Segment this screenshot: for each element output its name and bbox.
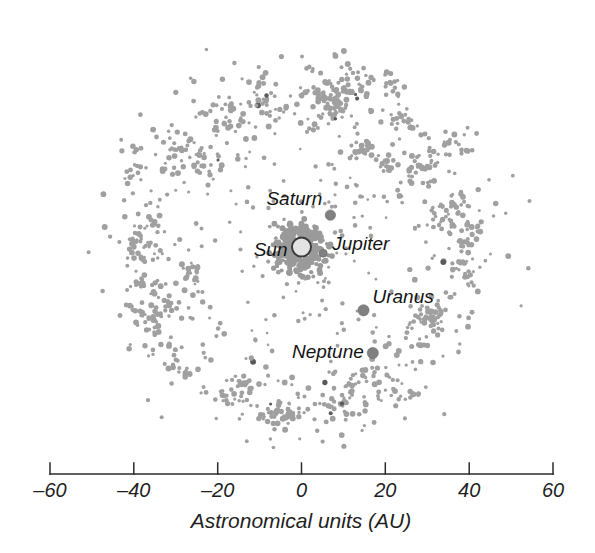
planet-marker-saturn: [325, 210, 335, 220]
kuiper-belt-figure: SunJupiterSaturnUranusNeptune –60–40–200…: [0, 0, 595, 553]
x-axis-tick-label: –20: [200, 479, 234, 501]
planet-marker-neptune: [367, 347, 378, 358]
x-axis-tick-label: 0: [296, 479, 307, 501]
x-axis-tick-label: –40: [116, 479, 150, 501]
x-axis-title: Astronomical units (AU): [189, 509, 412, 532]
planet-label-uranus: Uranus: [373, 286, 435, 307]
x-axis-tick-label: –60: [32, 479, 66, 501]
x-axis: –60–40–200204060: [32, 463, 564, 501]
planet-labels-layer: SunJupiterSaturnUranusNeptune: [254, 188, 435, 362]
scatter-plot-svg: SunJupiterSaturnUranusNeptune –60–40–200…: [0, 0, 595, 553]
planet-marker-uranus: [358, 305, 369, 316]
x-axis-tick-label: 20: [373, 479, 396, 501]
sun-marker: [292, 238, 311, 257]
planet-marker-jupiter: [319, 249, 327, 257]
planet-label-neptune: Neptune: [292, 341, 364, 362]
planet-label-saturn: Saturn: [266, 188, 322, 209]
x-axis-tick-label: 60: [542, 479, 564, 501]
planet-label-jupiter: Jupiter: [331, 233, 390, 254]
x-axis-tick-label: 40: [458, 479, 480, 501]
planet-label-sun: Sun: [254, 239, 288, 260]
